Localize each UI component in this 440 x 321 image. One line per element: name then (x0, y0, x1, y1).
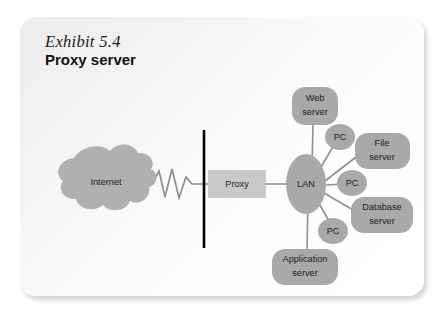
file-server-label-line1: File (375, 138, 390, 148)
file-server-label-line2: server (369, 152, 395, 162)
node-file-server: File server (355, 133, 410, 169)
node-proxy: Proxy (208, 170, 266, 198)
lan-label: LAN (297, 179, 315, 189)
node-internet: Internet (58, 144, 156, 210)
database-server-label-line2: server (369, 216, 395, 226)
pc-bottom-label: PC (327, 226, 340, 236)
pc-middle-label: PC (346, 178, 359, 188)
web-server-label-line2: server (302, 107, 328, 117)
node-pc-top: PC (325, 124, 355, 150)
application-server-label-line1: Application (283, 254, 328, 264)
exhibit-card: Exhibit 5.4 Proxy server (20, 17, 424, 296)
internet-label: Internet (90, 177, 122, 187)
node-application-server: Application server (272, 249, 338, 285)
zigzag-link-icon (152, 169, 205, 198)
node-pc-bottom: PC (318, 218, 348, 244)
application-server-label-line2: server (292, 268, 318, 278)
node-pc-middle: PC (337, 170, 367, 196)
network-diagram: Internet Proxy LAN Web server PC File (20, 17, 424, 296)
proxy-label: Proxy (225, 179, 249, 189)
node-web-server: Web server (292, 87, 338, 125)
database-server-label-line1: Database (362, 202, 401, 212)
node-lan: LAN (286, 154, 326, 214)
pc-top-label: PC (334, 132, 347, 142)
web-server-label-line1: Web (306, 93, 325, 103)
node-database-server: Database server (351, 197, 413, 233)
